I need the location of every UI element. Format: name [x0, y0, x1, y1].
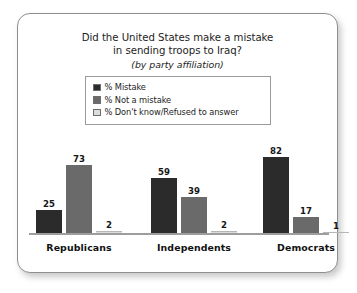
bar-value-label: 73 [59, 154, 99, 164]
category-label-republicans: Republicans [19, 242, 139, 253]
category-label-democrats: Democrats [246, 242, 357, 253]
bar-value-label: 1 [316, 221, 356, 231]
bar-value-label: 2 [89, 220, 129, 230]
bar [96, 231, 122, 233]
bar [36, 210, 62, 233]
bar-value-label: 39 [174, 186, 214, 196]
bar-value-label: 25 [29, 199, 69, 209]
plot-area: 257325939282171 RepublicansIndependentsD… [18, 14, 337, 272]
bar-value-label: 17 [286, 206, 326, 216]
bar [211, 231, 237, 233]
x-axis-baseline [29, 233, 329, 235]
bar-value-label: 2 [204, 220, 244, 230]
chart-frame: Did the United States make a mistake in … [17, 13, 338, 273]
bar [323, 232, 349, 233]
bar [263, 157, 289, 233]
category-label-independents: Independents [134, 242, 254, 253]
bar-value-label: 59 [144, 167, 184, 177]
bar-value-label: 82 [256, 146, 296, 156]
